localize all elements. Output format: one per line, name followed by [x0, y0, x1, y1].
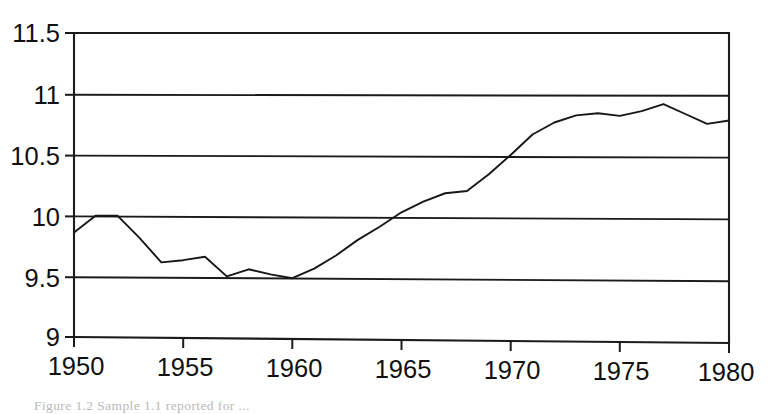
figure-container: 11.5 11 10.5 10 9.5 9 1950 1955 1960 196… — [0, 0, 771, 414]
x-tick-label-1980: 1980 — [698, 358, 755, 386]
x-tick-label-1970: 1970 — [484, 356, 541, 384]
y-tick-label-11-5: 11.5 — [12, 19, 60, 47]
y-tick-label-9-5: 9.5 — [25, 264, 60, 292]
x-tick-label-1965: 1965 — [375, 355, 432, 383]
data-series-line — [74, 104, 729, 278]
x-tick-label-1950: 1950 — [48, 352, 105, 380]
x-tick-label-1955: 1955 — [157, 353, 214, 381]
y-axis-ticks — [65, 33, 74, 337]
grid-line-10-5 — [74, 156, 729, 158]
axes — [74, 33, 729, 343]
x-tick-label-1975: 1975 — [593, 357, 650, 385]
y-tick-labels: 11.5 11 10.5 10 9.5 9 — [10, 19, 60, 351]
grid-lines — [74, 33, 729, 281]
y-tick-label-9: 9 — [46, 323, 60, 351]
figure-caption: Figure 1.2 Sample 1.1 reported for ... — [34, 398, 754, 414]
grid-line-11 — [74, 95, 729, 96]
x-tick-label-1960: 1960 — [266, 354, 323, 382]
y-tick-label-11: 11 — [34, 81, 60, 109]
y-tick-label-10-5: 10.5 — [10, 142, 60, 170]
x-tick-labels: 1950 1955 1960 1965 1970 1975 1980 — [48, 352, 755, 386]
grid-line-9-5 — [74, 277, 729, 281]
line-chart: 11.5 11 10.5 10 9.5 9 1950 1955 1960 196… — [0, 0, 771, 414]
grid-line-10 — [74, 216, 729, 219]
y-tick-label-10: 10 — [32, 203, 60, 231]
